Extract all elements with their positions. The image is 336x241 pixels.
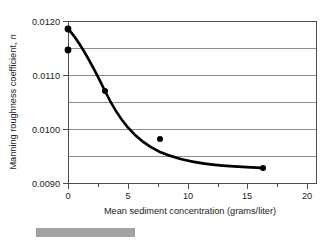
y-axis-tickmarks <box>63 21 68 183</box>
x-axis-tick-labels: 0 5 10 15 20 <box>65 191 312 201</box>
y-tick-label-1: 0.0110 <box>33 71 60 81</box>
caption-placeholder-bar <box>36 228 135 237</box>
y-axis-title-group: Manning roughness coefficient,n <box>8 34 18 169</box>
data-point-0 <box>65 26 72 33</box>
x-tick-label-1: 5 <box>125 191 130 201</box>
figure-container: 0.0120 0.0110 0.0100 0.0090 0 5 10 15 20… <box>0 0 336 241</box>
x-axis-tickmarks <box>68 183 307 189</box>
chart-canvas: 0.0120 0.0110 0.0100 0.0090 0 5 10 15 20… <box>0 0 336 241</box>
y-axis-title-symbol: n <box>8 34 18 39</box>
data-point-4 <box>260 165 266 171</box>
y-axis-tick-labels: 0.0120 0.0110 0.0100 0.0090 <box>32 17 60 189</box>
y-axis-title-text: Manning roughness coefficient, <box>8 43 18 170</box>
x-tick-label-0: 0 <box>65 191 70 201</box>
y-tick-label-2: 0.0100 <box>32 125 60 135</box>
x-tick-label-3: 15 <box>242 191 252 201</box>
y-tick-label-3: 0.0090 <box>32 179 60 189</box>
data-point-3 <box>157 136 163 142</box>
x-axis-title: Mean sediment concentration (grams/liter… <box>104 206 276 216</box>
data-point-2 <box>102 88 108 94</box>
data-point-1 <box>65 47 72 54</box>
y-axis-title: Manning roughness coefficient,n <box>8 34 18 169</box>
x-tick-label-2: 10 <box>183 191 193 201</box>
y-tick-label-0: 0.0120 <box>32 17 60 27</box>
x-tick-label-4: 20 <box>302 191 312 201</box>
